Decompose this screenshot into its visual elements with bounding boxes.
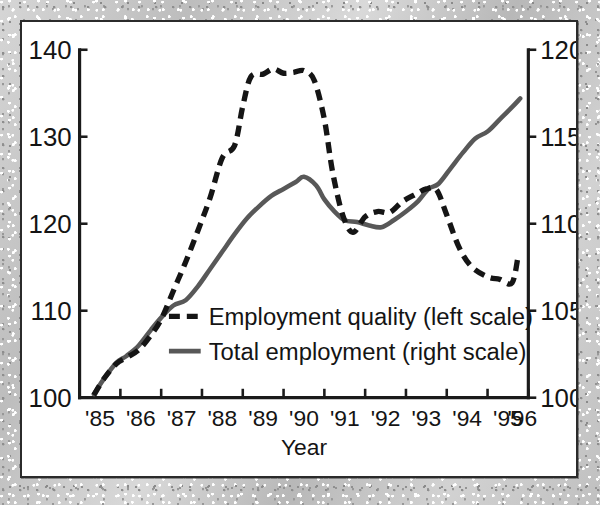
legend-label-total-employment: Total employment (right scale)	[209, 338, 527, 365]
x-tick-label-94: '94	[452, 405, 482, 431]
x-tick-label-90: '90	[289, 405, 319, 431]
chart-plot-area: 140 130 120 110 100 120 115 110 105 100 …	[22, 22, 576, 476]
y-left-tick-label-120: 120	[29, 210, 72, 238]
y-right-tick-label-100: 100	[540, 384, 576, 412]
y-left-tick-label-100: 100	[29, 384, 72, 412]
x-tick-label-87: '87	[167, 405, 197, 431]
y-right-tick-label-110: 110	[540, 210, 576, 238]
y-left-tick-label-130: 130	[29, 123, 72, 151]
x-tick-label-93: '93	[411, 405, 441, 431]
x-tick-label-86: '86	[126, 405, 156, 431]
chart-panel: 140 130 120 110 100 120 115 110 105 100 …	[20, 20, 578, 478]
x-tick-label-96: '96	[508, 405, 538, 431]
x-tick-label-92: '92	[371, 405, 401, 431]
figure-root: 140 130 120 110 100 120 115 110 105 100 …	[0, 0, 600, 505]
y-right-tick-label-115: 115	[540, 123, 576, 151]
x-axis-tick-labels: '85'86'87'88'89'90'91'92'93'94'95'96	[85, 405, 537, 431]
y-right-tick-label-120: 120	[540, 36, 576, 64]
x-tick-label-88: '88	[208, 405, 238, 431]
y-left-tick-label-110: 110	[30, 297, 71, 325]
legend-label-employment-quality: Employment quality (left scale)	[209, 303, 533, 330]
x-tick-label-91: '91	[330, 405, 360, 431]
y-right-tick-label-105: 105	[540, 297, 576, 325]
x-tick-label-89: '89	[248, 405, 278, 431]
y-left-tick-label-140: 140	[29, 36, 72, 64]
chart-legend: Employment quality (left scale) Total em…	[169, 303, 533, 365]
x-axis-title: Year	[281, 434, 328, 460]
x-tick-label-85: '85	[85, 405, 115, 431]
